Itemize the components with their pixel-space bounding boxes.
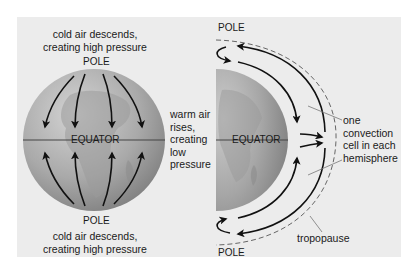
label-line: one [343, 114, 398, 127]
label-line: rises, [170, 121, 211, 134]
caption-line: creating high pressure [40, 41, 150, 54]
left-equator-label: EQUATOR [69, 134, 122, 146]
tropopause-label: tropopause [297, 232, 350, 245]
left-bottom-caption: cold air descends, creating high pressur… [40, 230, 150, 256]
left-bottom-pole-label: POLE [83, 214, 110, 227]
cell-leader-lower [308, 160, 342, 175]
caption-line: creating high pressure [40, 243, 150, 256]
label-line: creating [170, 133, 211, 146]
left-top-pole-label: POLE [83, 55, 110, 68]
tropopause-leader [310, 216, 322, 232]
label-line: pressure [170, 158, 211, 171]
cell-leader-upper [308, 106, 342, 120]
left-top-caption: cold air descends, creating high pressur… [40, 28, 150, 54]
caption-line: cold air descends, [40, 230, 150, 243]
right-top-pole-label: POLE [218, 21, 245, 34]
label-line: convection [343, 127, 398, 140]
label-line: low [170, 146, 211, 159]
convection-cell-label: one convection cell in each hemisphere [343, 114, 398, 164]
label-line: cell in each [343, 139, 398, 152]
label-line: hemisphere [343, 152, 398, 165]
right-equator-label: EQUATOR [230, 134, 283, 146]
caption-line: cold air descends, [40, 28, 150, 41]
label-line: warm air [170, 108, 211, 121]
warm-air-label: warm air rises, creating low pressure [170, 108, 211, 171]
right-bottom-pole-label: POLE [218, 246, 245, 259]
